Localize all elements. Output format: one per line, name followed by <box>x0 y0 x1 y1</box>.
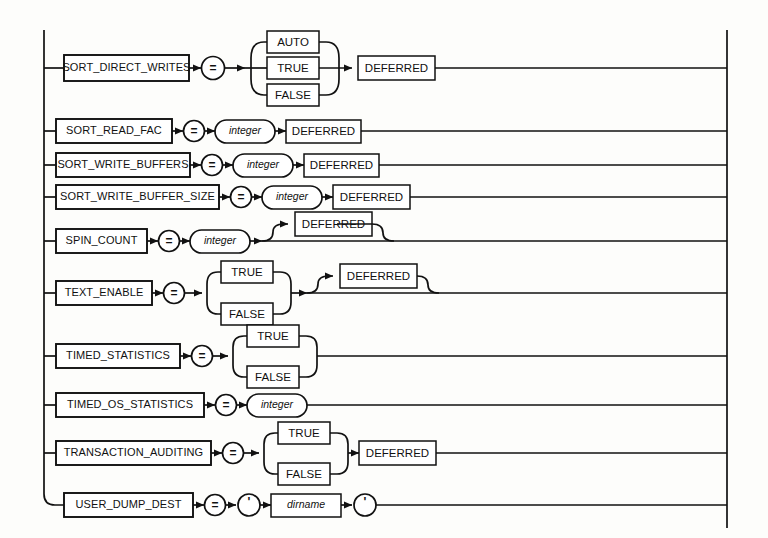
merge-true <box>299 336 317 356</box>
branch-down-false <box>251 79 267 95</box>
param-label-text-enable: TEXT_ENABLE <box>65 286 144 298</box>
row-transaction-auditing: TRANSACTION_AUDITING = TRUE FALSE DEFERR… <box>44 422 727 485</box>
row-timed-statistics: TIMED_STATISTICS = TRUE FALSE <box>44 325 727 388</box>
railroad-diagram-canvas: SORT_DIRECT_WRITES = AUTO TRUE FALSE DEF… <box>0 0 768 538</box>
optional-branch-up-spin-count <box>262 224 288 241</box>
choice-label-false: FALSE <box>229 308 265 320</box>
value-label-integer: integer <box>261 398 294 410</box>
param-label-user-dump-dest: USER_DUMP_DEST <box>76 498 182 510</box>
param-label-sort-write-buffer-size: SORT_WRITE_BUFFER_SIZE <box>60 190 215 202</box>
merge-false <box>319 68 339 95</box>
value-label-integer: integer <box>276 190 309 202</box>
row-sort-write-buffers: SORT_WRITE_BUFFERS = integer DEFERRED <box>44 153 727 177</box>
row-text-enable: TEXT_ENABLE = TRUE FALSE DEFERRED <box>44 261 727 325</box>
deferred-label: DEFERRED <box>340 191 403 203</box>
branch-up-auto <box>251 42 267 58</box>
deferred-label: DEFERRED <box>310 159 373 171</box>
param-label-sort-write-buffers: SORT_WRITE_BUFFERS <box>57 158 188 170</box>
param-label-transaction-auditing: TRANSACTION_AUDITING <box>64 446 204 458</box>
value-label-integer: integer <box>204 234 237 246</box>
branch-up-true <box>233 336 247 347</box>
merge-true <box>330 433 348 453</box>
row-spin-count: SPIN_COUNT = integer DEFERRED <box>44 212 727 253</box>
value-label-dirname: dirname <box>287 498 325 510</box>
merge-false <box>330 453 348 474</box>
merge-auto <box>319 42 339 68</box>
equals-label: = <box>229 446 236 460</box>
branch-down-false <box>264 462 278 474</box>
quote-label-open: ' <box>248 495 251 509</box>
param-label-sort-direct-writes: SORT_DIRECT_WRITES <box>62 61 190 73</box>
optional-branch-up-text-enable <box>307 276 333 293</box>
choice-label-true: TRUE <box>257 330 289 342</box>
row-sort-write-buffer-size: SORT_WRITE_BUFFER_SIZE = integer DEFERRE… <box>44 185 727 209</box>
choice-label-false: FALSE <box>255 371 291 383</box>
choice-label-true: TRUE <box>288 427 320 439</box>
param-label-sort-read-fac: SORT_READ_FAC <box>66 124 162 136</box>
choice-label-true: TRUE <box>277 62 309 74</box>
value-label-integer: integer <box>247 158 280 170</box>
merge-false <box>299 356 317 377</box>
equals-label: = <box>170 286 177 300</box>
choice-label-true: TRUE <box>231 266 263 278</box>
deferred-label: DEFERRED <box>347 270 410 282</box>
branch-down-false <box>233 365 247 377</box>
branch-down-false <box>207 302 221 314</box>
row-user-dump-dest: USER_DUMP_DEST = ' dirname ' <box>64 493 727 517</box>
choice-label-auto: AUTO <box>277 36 309 48</box>
equals-label: = <box>211 498 218 512</box>
deferred-label: DEFERRED <box>292 125 355 137</box>
param-label-timed-os-statistics: TIMED_OS_STATISTICS <box>67 398 193 410</box>
deferred-label: DEFERRED <box>366 447 429 459</box>
deferred-label: DEFERRED <box>365 62 428 74</box>
equals-label: = <box>209 61 216 75</box>
quote-label-close: ' <box>364 495 367 509</box>
merge-false <box>273 293 291 314</box>
row-timed-os-statistics: TIMED_OS_STATISTICS = integer <box>44 393 727 417</box>
equals-label: = <box>165 234 172 248</box>
choice-label-false: FALSE <box>286 468 322 480</box>
optional-branch-down-text-enable <box>417 276 439 293</box>
value-label-integer: integer <box>229 124 262 136</box>
equals-label: = <box>190 124 197 138</box>
equals-label: = <box>222 398 229 412</box>
left-rail <box>44 30 64 505</box>
railroad-diagram: SORT_DIRECT_WRITES = AUTO TRUE FALSE DEF… <box>0 0 768 538</box>
param-label-timed-statistics: TIMED_STATISTICS <box>66 349 170 361</box>
equals-label: = <box>198 349 205 363</box>
row-sort-direct-writes: SORT_DIRECT_WRITES = AUTO TRUE FALSE DEF… <box>44 31 727 106</box>
row-sort-read-fac: SORT_READ_FAC = integer DEFERRED <box>44 119 727 143</box>
equals-label: = <box>237 190 244 204</box>
branch-up-true <box>207 272 221 284</box>
equals-label: = <box>208 158 215 172</box>
merge-true <box>273 272 291 293</box>
param-label-spin-count: SPIN_COUNT <box>66 234 138 246</box>
branch-up-true <box>264 433 278 444</box>
choice-label-false: FALSE <box>275 89 311 101</box>
